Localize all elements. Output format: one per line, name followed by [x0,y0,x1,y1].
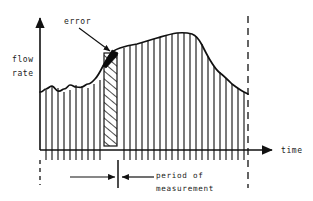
error-annotation-label: error [64,17,91,26]
measurement-period-indicator [70,160,154,188]
period-label-line2: measurement [156,184,214,193]
figure-container: flow rate time error period of measureme… [0,0,313,201]
flow-rate-vs-time-diagram: flow rate time error period of measureme… [0,0,313,201]
period-label-line1: period of [156,171,203,180]
flow-rate-curve [40,33,248,94]
x-axis-label: time [281,146,303,155]
error-callout-leader [79,28,110,51]
y-axis-label-line1: flow [12,55,34,64]
sampling-lines-group [46,33,244,160]
y-axis-label-line2: rate [12,69,34,78]
